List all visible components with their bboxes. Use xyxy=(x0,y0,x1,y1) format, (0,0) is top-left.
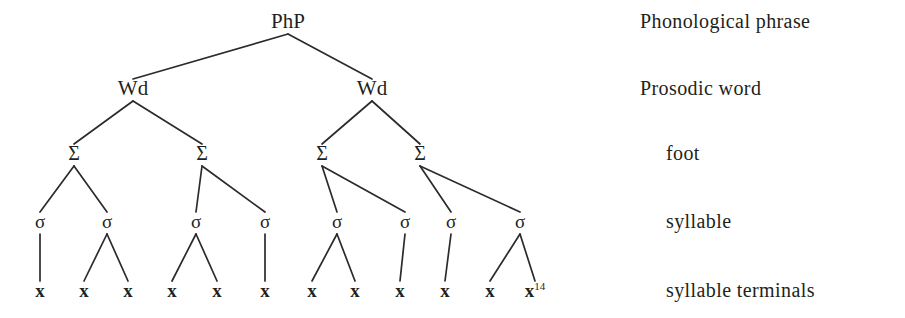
prosodic-hierarchy-figure: PhPWdWdΣΣΣΣσσσσσσσσxxxxxxxxxxxx14 Phonol… xyxy=(0,0,905,318)
node-terminal: x xyxy=(123,280,133,301)
tree-node-layer: PhPWdWdΣΣΣΣσσσσσσσσxxxxxxxxxxxx14 xyxy=(35,9,546,301)
tree-branch xyxy=(520,234,535,281)
tree-branch xyxy=(322,101,372,144)
node-terminal: x xyxy=(485,280,495,301)
node-foot: Σ xyxy=(316,142,328,164)
tree-branch xyxy=(288,34,372,79)
tree-branch xyxy=(312,234,337,281)
footnote-marker: 14 xyxy=(534,280,546,292)
node-terminal: x xyxy=(260,280,270,301)
tree-branch xyxy=(400,234,405,281)
node-terminal: x xyxy=(395,280,405,301)
tree-branch xyxy=(372,101,420,144)
node-foot: Σ xyxy=(68,142,80,164)
node-terminal: x xyxy=(35,280,45,301)
node-syllable: σ xyxy=(446,211,456,232)
tier-label-syl: syllable xyxy=(666,210,731,233)
tree-branch xyxy=(172,234,196,281)
node-syllable: σ xyxy=(515,211,525,232)
tree-branch xyxy=(84,234,107,281)
tree-branch xyxy=(337,234,355,281)
node-terminal: x14 xyxy=(525,280,546,301)
tier-label-wd: Prosodic word xyxy=(640,77,761,99)
tree-branch xyxy=(40,166,74,212)
node-terminal: x xyxy=(307,280,317,301)
tree-branch xyxy=(133,101,202,144)
tree-branch xyxy=(133,34,288,79)
node-prosodic-word: Wd xyxy=(118,76,149,100)
node-syllable: σ xyxy=(332,211,342,232)
tree-branch xyxy=(196,166,202,212)
node-syllable: σ xyxy=(400,211,410,232)
tree-branch-layer xyxy=(40,34,535,281)
tree-diagram: PhPWdWdΣΣΣΣσσσσσσσσxxxxxxxxxxxx14 Phonol… xyxy=(0,0,905,318)
tier-label-foot: foot xyxy=(666,142,700,164)
tree-branch xyxy=(445,234,451,281)
tree-branch xyxy=(107,234,128,281)
node-syllable: σ xyxy=(35,211,45,232)
node-terminal: x xyxy=(212,280,222,301)
tree-branch xyxy=(196,234,217,281)
node-terminal: x xyxy=(167,280,177,301)
tree-branch xyxy=(74,166,107,212)
node-terminal: x xyxy=(440,280,450,301)
node-foot: Σ xyxy=(414,142,426,164)
tier-label-php: Phonological phrase xyxy=(640,10,810,33)
node-terminal: x xyxy=(79,280,89,301)
tree-branch xyxy=(490,234,520,281)
tree-branch xyxy=(202,166,265,212)
node-prosodic-word: Wd xyxy=(357,76,388,100)
node-php: PhP xyxy=(271,9,305,33)
tree-branch xyxy=(74,101,133,144)
tier-label-layer: Phonological phraseProsodic wordfootsyll… xyxy=(640,10,815,302)
tier-label-term: syllable terminals xyxy=(666,279,815,302)
node-syllable: σ xyxy=(191,211,201,232)
node-terminal: x xyxy=(350,280,360,301)
node-syllable: σ xyxy=(260,211,270,232)
node-foot: Σ xyxy=(196,142,208,164)
node-syllable: σ xyxy=(102,211,112,232)
